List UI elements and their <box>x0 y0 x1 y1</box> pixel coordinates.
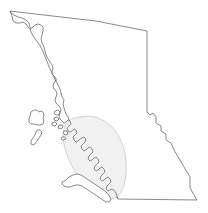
small-island-shape <box>54 117 59 121</box>
small-island-shape <box>52 122 57 126</box>
small-island-shape <box>58 125 63 129</box>
small-island-shape <box>54 110 60 115</box>
haida-gwaii-south-shape <box>31 130 42 145</box>
small-island-shape <box>61 137 66 140</box>
haida-gwaii-north-shape <box>29 110 44 125</box>
map-canvas <box>0 0 208 213</box>
map-figure <box>0 0 208 213</box>
